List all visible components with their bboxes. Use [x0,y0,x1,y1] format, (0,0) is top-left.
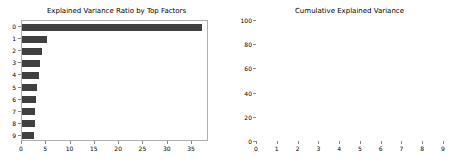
x-tick-label: 0 [254,145,258,152]
y-tick-mark [253,20,256,21]
bar-item [22,24,202,31]
bar-chart-plot-area [21,20,208,141]
x-tick-mark [70,141,71,144]
x-tick-mark [94,141,95,144]
y-tick-label: 0 [4,23,16,30]
y-tick-label: 8 [4,119,16,126]
x-tick-mark [443,141,444,144]
y-tick-mark [18,111,21,112]
bar-item [22,48,42,55]
bar-item [22,132,34,139]
y-tick-label: 0 [234,138,252,145]
y-tick-label: 5 [4,83,16,90]
y-tick-mark [18,38,21,39]
bar-item [22,96,36,103]
y-tick-label: 60 [234,65,252,72]
y-tick-label: 3 [4,59,16,66]
x-tick-mark [142,141,143,144]
x-tick-label: 2 [296,145,300,152]
x-tick-label: 6 [379,145,383,152]
x-tick-mark [191,141,192,144]
x-tick-mark [339,141,340,144]
x-tick-mark [21,141,22,144]
x-tick-mark [256,141,257,144]
x-tick-mark [422,141,423,144]
x-tick-mark [298,141,299,144]
x-tick-label: 5 [43,145,47,152]
x-tick-mark [318,141,319,144]
bar-item [22,36,47,43]
y-tick-label: 100 [234,17,252,24]
y-tick-label: 1 [4,35,16,42]
bar-item [22,72,39,79]
x-tick-label: 20 [114,145,122,152]
x-tick-mark [45,141,46,144]
y-tick-mark [18,87,21,88]
y-tick-mark [253,141,256,142]
x-tick-label: 1 [275,145,279,152]
x-tick-label: 7 [400,145,404,152]
line-chart-panel: Cumulative Explained Variance 0123456789… [233,0,466,168]
x-tick-label: 30 [163,145,171,152]
x-tick-mark [401,141,402,144]
x-tick-mark [277,141,278,144]
x-tick-label: 35 [187,145,195,152]
x-tick-label: 15 [90,145,98,152]
bar-item [22,120,35,127]
y-tick-mark [18,62,21,63]
x-tick-label: 0 [19,145,23,152]
y-tick-mark [253,68,256,69]
bar-series-layer [22,21,207,140]
bar-item [22,84,37,91]
x-tick-label: 25 [139,145,147,152]
figure-canvas: Explained Variance Ratio by Top Factors … [0,0,466,168]
y-tick-mark [253,93,256,94]
y-tick-label: 7 [4,107,16,114]
y-tick-label: 4 [4,71,16,78]
y-tick-label: 20 [234,113,252,120]
x-tick-label: 3 [316,145,320,152]
y-tick-label: 40 [234,89,252,96]
x-tick-label: 9 [441,145,445,152]
y-tick-mark [253,117,256,118]
y-tick-mark [253,44,256,45]
line-chart-title: Cumulative Explained Variance [233,7,466,16]
x-tick-label: 5 [358,145,362,152]
y-tick-mark [18,123,21,124]
bar-item [22,60,40,67]
y-tick-mark [18,50,21,51]
x-tick-mark [167,141,168,144]
y-tick-label: 9 [4,131,16,138]
y-tick-label: 2 [4,47,16,54]
y-tick-mark [18,99,21,100]
x-tick-mark [118,141,119,144]
x-tick-label: 10 [66,145,74,152]
y-tick-mark [18,74,21,75]
x-tick-mark [381,141,382,144]
bar-chart-panel: Explained Variance Ratio by Top Factors … [0,0,233,168]
y-tick-mark [18,135,21,136]
bar-item [22,108,35,115]
x-tick-label: 4 [337,145,341,152]
x-tick-mark [360,141,361,144]
y-tick-label: 6 [4,95,16,102]
x-tick-label: 8 [420,145,424,152]
y-tick-label: 80 [234,41,252,48]
bar-chart-title: Explained Variance Ratio by Top Factors [0,7,233,16]
y-tick-mark [18,26,21,27]
